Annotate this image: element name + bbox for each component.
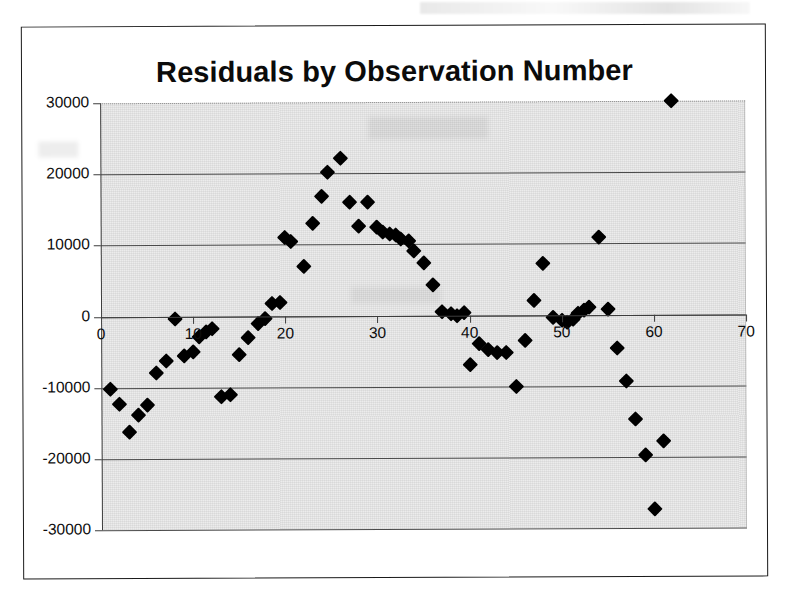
- data-point: [638, 448, 654, 464]
- y-tick-label-20000: 20000: [46, 164, 89, 182]
- y-tick-label--10000: -10000: [42, 378, 90, 396]
- data-point: [351, 218, 367, 234]
- data-point: [656, 433, 672, 449]
- chart-frame: Residuals by Observation Number 30000200…: [21, 23, 768, 579]
- data-point: [314, 188, 330, 204]
- y-tick-mark--30000: [95, 530, 102, 531]
- x-tick-label-40: 40: [445, 323, 495, 341]
- scan-artifact-top: [420, 2, 750, 14]
- data-point: [416, 255, 432, 271]
- y-tick-mark-0: [94, 317, 101, 318]
- data-point: [535, 255, 551, 271]
- data-point: [499, 345, 515, 361]
- x-axis-ticks: 010203040506070: [22, 24, 767, 27]
- scan-artifact-mid: [351, 287, 441, 303]
- gridline-y-30000: [100, 100, 745, 104]
- data-point: [360, 194, 376, 210]
- y-tick-mark--20000: [95, 459, 102, 460]
- x-tick-label-0: 0: [76, 325, 126, 343]
- data-point: [462, 357, 478, 373]
- x-tick-mark-50: [562, 315, 563, 322]
- y-tick-label--30000: -30000: [43, 520, 91, 538]
- data-point: [121, 424, 137, 440]
- data-point: [628, 411, 644, 427]
- y-tick-mark--10000: [94, 388, 101, 389]
- x-tick-mark-30: [377, 316, 378, 323]
- data-point: [232, 347, 248, 363]
- data-point: [526, 292, 542, 308]
- x-tick-label-60: 60: [629, 322, 679, 340]
- data-point: [647, 501, 663, 517]
- x-tick-label-50: 50: [537, 323, 587, 341]
- y-tick-mark-20000: [93, 174, 100, 175]
- x-tick-mark-10: [193, 316, 194, 323]
- x-tick-label-10: 10: [168, 324, 218, 342]
- x-tick-label-20: 20: [260, 324, 310, 342]
- data-point: [609, 340, 625, 356]
- gridline-y--30000: [102, 527, 747, 531]
- data-point: [425, 277, 441, 293]
- x-axis-line: [101, 314, 746, 318]
- y-tick-label-30000: 30000: [46, 93, 89, 111]
- y-axis-ticks: 3000020000100000-10000-20000-30000: [22, 24, 767, 27]
- data-point: [103, 382, 119, 398]
- y-tick-mark-10000: [94, 246, 101, 247]
- data-point: [305, 216, 321, 232]
- chart-inner: Residuals by Observation Number 30000200…: [22, 24, 769, 580]
- y-tick-label--20000: -20000: [42, 449, 90, 467]
- plot-area: [100, 100, 747, 530]
- x-tick-label-70: 70: [721, 322, 771, 340]
- scan-artifact-left: [38, 141, 78, 157]
- x-tick-mark-60: [654, 314, 655, 321]
- gridlines: [100, 100, 745, 103]
- data-point: [332, 151, 348, 167]
- data-point: [508, 378, 524, 394]
- data-point: [296, 258, 312, 274]
- y-tick-label-10000: 10000: [47, 236, 90, 254]
- chart-title: Residuals by Observation Number: [22, 53, 767, 89]
- y-tick-label-0: 0: [81, 307, 90, 325]
- data-point: [112, 396, 128, 412]
- scan-artifact-peak: [368, 117, 488, 140]
- x-tick-mark-20: [285, 316, 286, 323]
- gridline-y--10000: [101, 385, 746, 389]
- x-tick-label-30: 30: [353, 323, 403, 341]
- data-point: [319, 164, 335, 180]
- gridline-y-10000: [101, 243, 746, 247]
- data-point: [149, 366, 165, 382]
- data-point: [664, 93, 680, 109]
- data-point: [342, 194, 358, 210]
- data-point: [517, 333, 533, 349]
- data-point: [158, 353, 174, 369]
- y-tick-mark-30000: [93, 103, 100, 104]
- x-tick-mark-70: [746, 314, 747, 321]
- x-tick-mark-40: [470, 315, 471, 322]
- data-point: [241, 330, 257, 346]
- gridline-y-20000: [100, 172, 745, 176]
